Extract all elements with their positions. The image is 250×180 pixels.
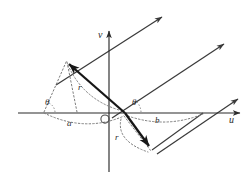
arc-label-r-lower: r xyxy=(115,133,119,142)
parallel-line-right xyxy=(157,99,238,154)
angle-marks-group xyxy=(49,101,141,112)
angle-mark-origin xyxy=(136,101,141,112)
vector-lower-right xyxy=(125,113,149,146)
arc-label-a: a xyxy=(67,119,72,128)
angle-label-origin: θ xyxy=(132,98,136,107)
angle-label-left: θ xyxy=(45,98,49,107)
vector-diagram-figure: v u θ θ a b r r xyxy=(0,0,250,180)
axes-group xyxy=(18,31,240,172)
parallel-line-center xyxy=(112,44,224,118)
arc-label-b: b xyxy=(155,116,160,125)
arc-label-r-upper: r xyxy=(78,83,82,92)
angle-mark-left xyxy=(49,103,55,112)
v-axis-label: v xyxy=(98,30,102,40)
u-axis-label: u xyxy=(229,115,234,125)
parallel-lines-group xyxy=(56,17,238,154)
diagram-canvas xyxy=(0,0,250,180)
arc-a xyxy=(44,113,124,124)
dotted-lower-leg xyxy=(124,116,151,151)
